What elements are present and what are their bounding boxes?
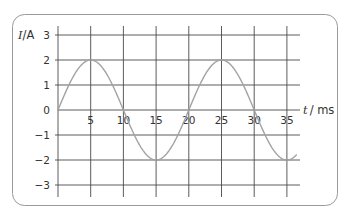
y-axis-label: I/A bbox=[17, 28, 34, 42]
y-tick-label: 1 bbox=[43, 79, 50, 91]
x-tick-label: 5 bbox=[87, 114, 94, 126]
y-tick-label: 3 bbox=[43, 29, 50, 41]
y-tick-label: −1 bbox=[35, 129, 50, 141]
x-tick-label: 25 bbox=[215, 114, 228, 126]
x-tick-labels: 5101520253035 bbox=[87, 114, 293, 126]
y-tick-labels: 3210−1−2−3 bbox=[35, 29, 50, 191]
gridlines bbox=[55, 26, 300, 197]
x-axis-label: t/ ms bbox=[303, 103, 334, 117]
x-tick-label: 35 bbox=[280, 114, 293, 126]
chart: 3210−1−2−3 5101520253035 I/A t/ ms bbox=[0, 0, 345, 216]
y-tick-label: −2 bbox=[35, 154, 50, 166]
y-tick-label: 2 bbox=[43, 54, 50, 66]
x-tick-label: 15 bbox=[149, 114, 162, 126]
y-tick-label: −3 bbox=[35, 179, 50, 191]
y-tick-label: 0 bbox=[43, 104, 50, 116]
